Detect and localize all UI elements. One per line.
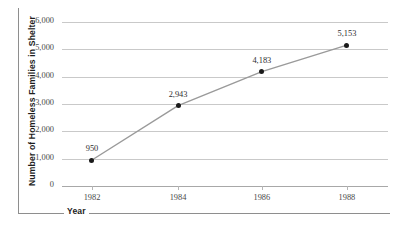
x-axis-tick-mark (92, 186, 93, 190)
data-point-label: 4,183 (232, 56, 292, 65)
x-axis-tick-label: 1982 (62, 193, 122, 202)
y-axis-tick-label: 0 (8, 180, 54, 189)
y-axis-tick-label: 3,000 (8, 98, 54, 107)
series-line-path (62, 22, 388, 186)
y-axis-tick-label: 1,000 (8, 153, 54, 162)
y-axis-tick-label: 2,000 (8, 125, 54, 134)
y-axis-tick-label: 4,000 (8, 71, 54, 80)
x-axis-tick-label: 1984 (148, 193, 208, 202)
y-axis-tick-label: 6,000 (8, 16, 54, 25)
chart-figure: Number of Homeless Families in Shelter Y… (0, 0, 396, 237)
data-point-label: 5,153 (317, 29, 377, 38)
x-axis-tick-mark (178, 186, 179, 190)
data-point-marker (176, 103, 181, 108)
plot-area: 01,0002,0003,0004,0005,0006,000 19821984… (62, 22, 388, 186)
y-axis-tick-label: 5,000 (8, 43, 54, 52)
x-axis-tick-label: 1988 (317, 193, 377, 202)
x-axis-tick-mark (347, 186, 348, 190)
x-axis-tick-mark (262, 186, 263, 190)
gridline (62, 186, 388, 187)
x-axis-title: Year (64, 206, 89, 216)
data-point-label: 2,943 (148, 90, 208, 99)
data-point-label: 950 (62, 144, 122, 153)
x-axis-tick-label: 1986 (232, 193, 292, 202)
